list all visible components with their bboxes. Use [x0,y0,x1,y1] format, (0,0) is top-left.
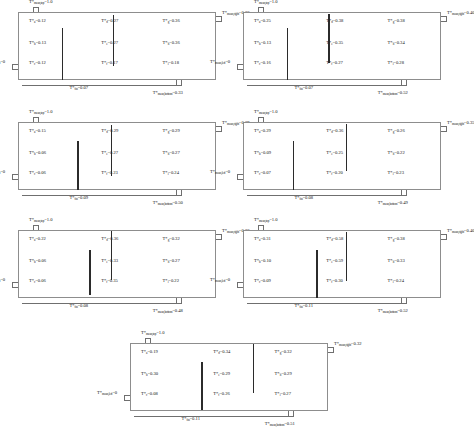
node-temperature-label: T*e=0.29 [213,372,230,377]
fin-bar [293,141,294,190]
node-temperature-label: T*a=0.31 [254,237,271,242]
node-temperature-label: T*g=0.36 [163,19,180,24]
leader-bracket-right [216,126,222,132]
boundary-label-left: T*mean,left=0 [0,60,5,65]
boundary-label-top: T*mean,top=1.0 [29,218,53,223]
node-temperature-label: T*d=0.36 [101,237,118,242]
fin-bar [346,124,347,171]
node-temperature-label: T*f=0.35 [101,279,118,284]
node-temperature-label: T*g=0.32 [275,350,292,355]
node-temperature-label: T*b=0.10 [254,259,271,264]
fin-bar [328,14,329,63]
boundary-label-left: T*mean,left=0 [210,278,230,283]
node-temperature-label: T*i=0.24 [163,171,179,176]
node-temperature-label: T*c=0.07 [254,171,271,176]
node-temperature-label: T*c=0.08 [141,392,158,397]
node-temperature-label: T*d=0.58 [326,237,343,242]
enclosure-panel: T*a=0.31T*d=0.58T*g=0.38T*b=0.10T*e=0.59… [243,230,441,298]
leader-bracket-top [258,225,264,230]
leader-bracket-left [237,174,243,180]
boundary-label-left: T*mean,left=0 [210,60,230,65]
node-temperature-label: T*f=0.30 [326,279,343,284]
node-temperature-label: T*g=0.38 [388,19,405,24]
bottom-extension-line [22,303,180,304]
enclosure-panel: T*a=0.19T*d=0.34T*g=0.32T*b=0.30T*e=0.29… [130,343,328,411]
boundary-label-left: T*mean,left=0 [210,170,230,175]
boundary-label-bottom: T*mean,bottom=0.51 [265,422,295,427]
boundary-label-bottom: T*mean,bottom=0.50 [153,201,183,206]
boundary-label-bottom: T*mean,bottom=0.48 [153,309,183,314]
node-temperature-label: T*h=0.27 [163,151,180,156]
leader-bracket-top [33,225,39,230]
node-temperature-label: T*b=0.13 [254,41,271,46]
fin-temperature-label: T*fin=0.11 [294,304,313,309]
node-temperature-label: T*d=0.27 [101,19,118,24]
enclosure-panel: T*a=0.29T*d=0.36T*g=0.26T*b=0.09T*e=0.25… [243,122,441,190]
leader-bracket-left [12,174,18,180]
node-temperature-label: T*e=0.27 [101,151,118,156]
node-temperature-label: T*b=0.06 [29,151,46,156]
fin-temperature-label: T*fin=0.07 [69,86,88,91]
node-temperature-label: T*i=0.22 [163,279,179,284]
boundary-label-top: T*mean,top=1.0 [141,331,165,336]
node-temperature-label: T*g=0.38 [388,237,405,242]
node-temperature-label: T*i=0.18 [163,61,179,66]
leader-bracket-right [441,234,447,240]
node-temperature-label: T*a=0.29 [254,129,271,134]
node-temperature-label: T*b=0.13 [29,41,46,46]
enclosure-panel: T*a=0.22T*d=0.36T*g=0.32T*b=0.06T*e=0.33… [18,230,216,298]
fin-temperature-label: T*fin=0.07 [294,86,313,91]
leader-bracket-right [441,16,447,22]
enclosure-panel: T*a=0.12T*d=0.27T*g=0.36T*b=0.13T*e=0.27… [18,12,216,80]
node-temperature-label: T*b=0.06 [29,259,46,264]
boundary-label-top: T*mean,top=1.0 [254,0,278,5]
node-temperature-label: T*c=0.16 [254,61,271,66]
node-temperature-label: T*i=0.28 [388,61,404,66]
bottom-extension-line [22,195,180,196]
boundary-label-bottom: T*mean,bottom=0.52 [378,91,408,96]
node-temperature-label: T*h=0.27 [163,259,180,264]
node-temperature-label: T*g=0.26 [388,129,405,134]
leader-bracket-top [33,7,39,12]
fin-bar [253,344,254,393]
boundary-label-bottom: T*mean,bottom=0.49 [378,201,408,206]
leader-bracket-right [216,16,222,22]
fin-bar [316,250,317,298]
boundary-label-left: T*mean,left=0 [97,391,117,396]
fin-bar [77,141,78,190]
boundary-label-left: T*mean,left=0 [0,170,5,175]
leader-bracket-top [258,117,264,122]
node-temperature-label: T*e=0.25 [326,151,343,156]
node-temperature-label: T*f=0.26 [213,392,230,397]
node-temperature-label: T*f=0.20 [326,171,343,176]
fin-temperature-label: T*fin=0.09 [69,196,88,201]
leader-bracket-right [216,234,222,240]
boundary-label-top: T*mean,top=1.0 [29,0,53,5]
node-temperature-label: T*h=0.29 [275,372,292,377]
node-temperature-label: T*i=0.27 [275,392,291,397]
node-temperature-label: T*e=0.59 [326,259,343,264]
boundary-label-bottom: T*mean,bottom=0.52 [378,309,408,314]
node-temperature-label: T*f=0.23 [101,171,118,176]
boundary-label-left: T*mean,left=0 [0,278,5,283]
fin-temperature-label: T*fin=0.11 [181,417,200,422]
enclosure-panel: T*a=0.15T*d=0.29T*g=0.29T*b=0.06T*e=0.27… [18,122,216,190]
leader-bracket-top [145,338,151,343]
boundary-label-top: T*mean,top=1.0 [254,218,278,223]
boundary-label-right: T*mean,right=0.32 [334,342,361,347]
fin-bar [201,362,202,410]
node-temperature-label: T*h=0.34 [388,41,405,46]
fin-bar [113,15,114,66]
node-temperature-label: T*c=0.06 [29,279,46,284]
leader-bracket-left [124,395,130,401]
leader-bracket-left [12,282,18,288]
fin-bar [111,231,112,280]
boundary-label-top: T*mean,top=1.0 [254,110,278,115]
bottom-extension-line [22,85,180,86]
fin-bar [346,232,347,281]
boundary-label-bottom: T*mean,bottom=0.33 [153,91,183,96]
node-temperature-label: T*e=0.27 [101,41,118,46]
bottom-extension-line [247,85,405,86]
node-temperature-label: T*e=0.33 [101,259,118,264]
node-temperature-label: T*g=0.32 [163,237,180,242]
